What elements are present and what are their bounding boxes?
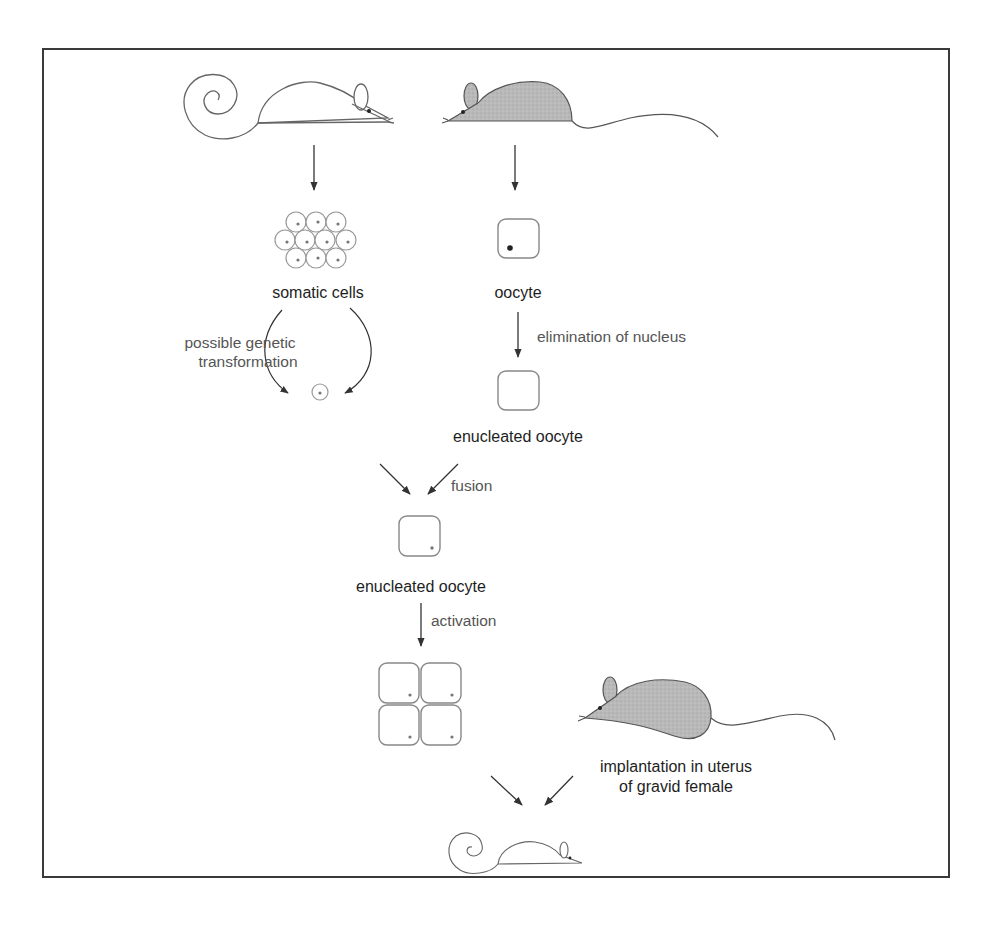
label-implantation-1: implantation in uterus bbox=[600, 758, 752, 776]
four-cell-embryo-icon bbox=[379, 663, 461, 745]
donor-mouse-icon bbox=[184, 74, 394, 138]
single-somatic-cell-icon bbox=[312, 384, 328, 400]
cloned-mouse-icon bbox=[449, 833, 582, 873]
label-somatic-cells: somatic cells bbox=[272, 284, 364, 302]
label-oocyte: oocyte bbox=[494, 284, 541, 302]
somatic-cells-icon bbox=[275, 212, 356, 268]
arrow-fusion-left bbox=[380, 464, 410, 494]
arrow-to-clone-left bbox=[491, 776, 522, 805]
label-enucleated-oocyte-1: enucleated oocyte bbox=[453, 428, 583, 446]
arrow-to-clone-right bbox=[545, 776, 573, 805]
surrogate-mother-mouse-icon bbox=[578, 677, 835, 740]
cloning-diagram bbox=[0, 0, 983, 944]
label-elimination-of-nucleus: elimination of nucleus bbox=[537, 328, 686, 346]
oocyte-donor-mouse-icon bbox=[442, 82, 718, 137]
fused-oocyte-icon bbox=[399, 516, 440, 556]
enucleated-oocyte-icon bbox=[498, 371, 539, 410]
label-fusion: fusion bbox=[451, 477, 492, 495]
label-genetic-transformation-2: transformation bbox=[198, 353, 297, 371]
label-activation: activation bbox=[431, 612, 496, 630]
label-genetic-transformation-1: possible genetic bbox=[184, 334, 295, 352]
curved-arrow-right bbox=[345, 308, 371, 393]
label-implantation-2: of gravid female bbox=[619, 778, 733, 796]
oocyte-icon bbox=[498, 219, 539, 258]
label-enucleated-oocyte-2: enucleated oocyte bbox=[356, 578, 486, 596]
